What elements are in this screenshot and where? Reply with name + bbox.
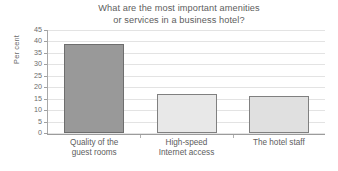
y-axis-tick-label: 45 — [2, 26, 42, 33]
gridline — [48, 30, 325, 31]
y-axis-tick-label: 15 — [2, 95, 42, 102]
x-axis-category-label: The hotel staff — [233, 138, 325, 148]
y-axis-tick-label: 25 — [2, 72, 42, 79]
y-axis-tick-label: 20 — [2, 83, 42, 90]
y-axis-tick-label: 0 — [2, 129, 42, 136]
y-axis-tick-label: 35 — [2, 49, 42, 56]
y-axis-tick-label: 30 — [2, 60, 42, 67]
plot-area — [48, 30, 325, 133]
gridline — [48, 41, 325, 42]
y-axis-tick-label: 10 — [2, 106, 42, 113]
chart-title: What are the most important amenities or… — [24, 3, 334, 26]
x-axis-tick-mark — [140, 135, 141, 138]
y-axis-tick-label: 5 — [2, 118, 42, 125]
gridline — [48, 133, 325, 134]
bar-chart: What are the most important amenities or… — [0, 0, 338, 171]
x-axis-category-label: High-speed Internet access — [140, 138, 232, 159]
y-axis-tick-label: 40 — [2, 37, 42, 44]
bar — [157, 94, 217, 133]
x-axis-category-label: Quality of the guest rooms — [48, 138, 140, 159]
x-axis-tick-mark — [233, 135, 234, 138]
bar — [249, 96, 309, 133]
bar — [64, 44, 124, 133]
